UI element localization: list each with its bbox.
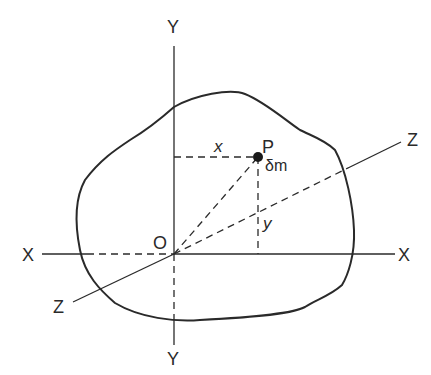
z-axis-lower xyxy=(73,254,174,302)
op-line xyxy=(174,157,258,254)
label-y-distance: y xyxy=(263,215,272,232)
label-x-right: X xyxy=(398,246,410,264)
label-z-left: Z xyxy=(53,298,64,316)
label-y-bottom: Y xyxy=(167,350,179,368)
label-y-top: Y xyxy=(167,18,179,36)
label-point-p: P xyxy=(262,138,274,156)
label-x-left: X xyxy=(22,246,34,264)
z-axis-upper xyxy=(350,142,401,167)
rigid-body-diagram xyxy=(0,0,431,375)
z-axis-hidden xyxy=(174,167,350,254)
label-x-distance: x xyxy=(214,138,223,155)
label-mass: δm xyxy=(265,158,287,174)
label-origin: O xyxy=(153,234,167,252)
label-z-right: Z xyxy=(407,131,418,149)
